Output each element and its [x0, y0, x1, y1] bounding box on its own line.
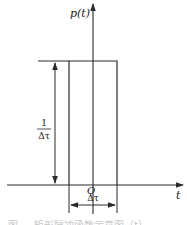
y-axis-label: p(t) [70, 7, 90, 20]
rectangular-pulse-diagram: p(t) t O Δτ 1 Δτ 图 … 矩形脉冲函数示意图（t） [0, 0, 187, 225]
height-label: 1 Δτ [37, 118, 51, 141]
height-label-numerator: 1 [41, 118, 47, 128]
height-label-denominator: Δτ [38, 131, 49, 141]
x-axis-label: t [176, 189, 181, 202]
figure-caption: 图 … 矩形脉冲函数示意图（t） [8, 219, 148, 225]
width-label: Δτ [87, 193, 98, 203]
